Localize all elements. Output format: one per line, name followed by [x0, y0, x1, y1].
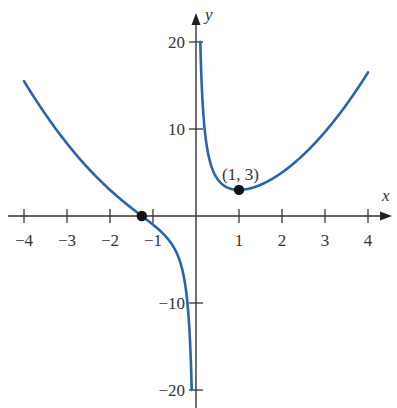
y-tick-label: −10: [158, 294, 185, 313]
x-axis-label: x: [381, 186, 390, 205]
x-tick-label: −4: [15, 231, 34, 250]
x-tick-label: 4: [364, 231, 373, 250]
x-tick-label: −3: [58, 231, 76, 250]
y-tick-label: 20: [168, 33, 185, 52]
x-tick-label: −2: [101, 231, 119, 250]
x-axis-arrow-icon: [380, 212, 392, 221]
y-axis-arrow-icon: [192, 13, 201, 25]
x-tick-label: 2: [278, 231, 287, 250]
x-tick-label: −1: [144, 231, 162, 250]
x-tick-label: 1: [235, 231, 244, 250]
data-point: [137, 211, 147, 221]
function-graph: −4−3−2−11234 2010−10−20 x y (1, 3): [0, 0, 397, 408]
y-axis-label: y: [203, 5, 213, 24]
min-point-label: (1, 3): [222, 165, 259, 184]
x-tick-label: 3: [321, 231, 330, 250]
x-ticks: −4−3−2−11234: [15, 209, 373, 250]
data-point: [234, 185, 244, 195]
y-tick-label: −20: [158, 381, 185, 400]
y-tick-label: 10: [168, 120, 185, 139]
